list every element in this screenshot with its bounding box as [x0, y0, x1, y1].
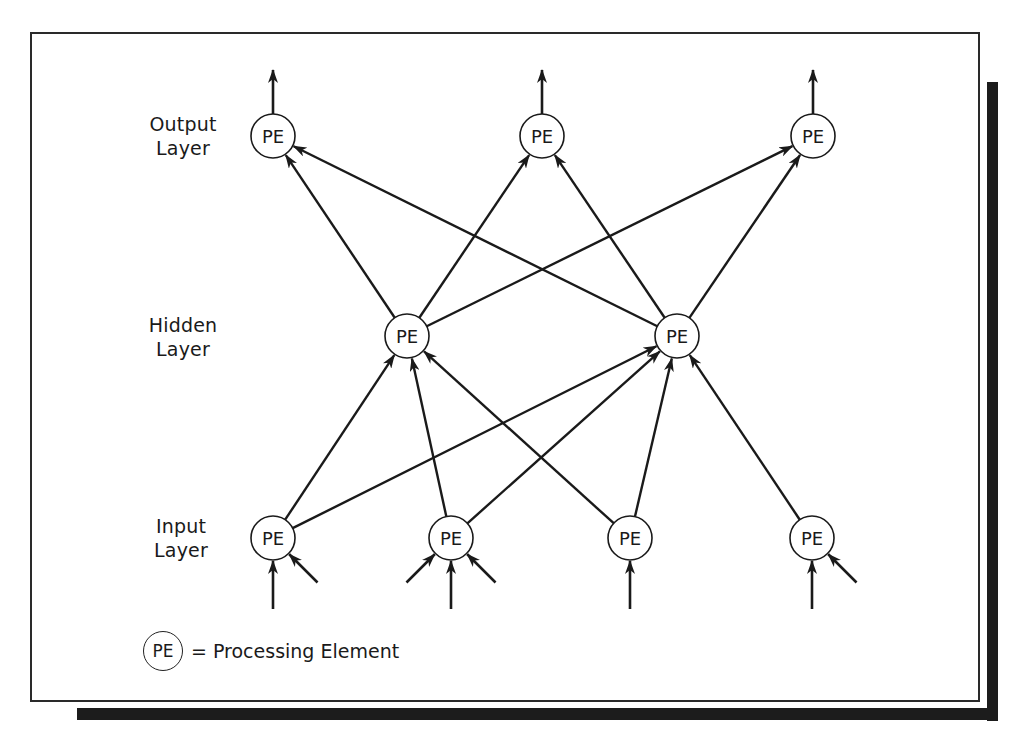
pe-label: PE [802, 126, 824, 147]
pe-node-o1: PE [251, 114, 295, 158]
pe-label: PE [619, 528, 641, 549]
connection-edges [285, 146, 800, 528]
pe-node-o2: PE [520, 114, 564, 158]
legend-text: = Processing Element [191, 640, 399, 662]
input-arrow-i4-from-lower-right [828, 554, 856, 582]
pe-label: PE [262, 528, 284, 549]
pe-label: PE [801, 528, 823, 549]
edge-i3-to-h1 [424, 351, 614, 523]
input-layer-label-line2: Layer [121, 538, 241, 562]
pe-node-h1: PE [385, 314, 429, 358]
edge-h1-to-o3 [427, 146, 793, 326]
edge-h1-to-o2 [419, 155, 529, 318]
input-arrow-i2-from-lower-left [406, 554, 434, 582]
hidden-layer-label-line2: Layer [123, 337, 243, 361]
input-arrow-i2-from-lower-right [467, 554, 495, 582]
output-layer-label-line1: Output [123, 112, 243, 136]
pe-label: PE [440, 528, 462, 549]
output-layer-label: Output Layer [123, 112, 243, 160]
edge-i1-to-h1 [285, 355, 394, 520]
processing-elements: PEPEPEPEPEPEPEPEPE [251, 114, 835, 560]
hidden-layer-label: Hidden Layer [123, 313, 243, 361]
edge-i2-to-h1 [412, 358, 446, 516]
edge-h2-to-o3 [689, 155, 800, 318]
edge-i3-to-h2 [635, 358, 672, 516]
legend-pe-symbol: PE [143, 631, 183, 671]
pe-label: PE [262, 126, 284, 147]
output-layer-label-line2: Layer [123, 136, 243, 160]
edge-i2-to-h2 [467, 351, 659, 523]
pe-label: PE [396, 326, 418, 347]
edge-i4-to-h2 [690, 355, 800, 520]
edge-i1-to-h2 [293, 346, 657, 528]
input-layer-label: Input Layer [121, 514, 241, 562]
pe-node-i3: PE [608, 516, 652, 560]
legend: PE = Processing Element [143, 628, 399, 674]
pe-node-h2: PE [655, 314, 699, 358]
pe-node-i4: PE [790, 516, 834, 560]
pe-label: PE [666, 326, 688, 347]
hidden-layer-label-line1: Hidden [123, 313, 243, 337]
input-arrow-i1-from-lower-right [289, 554, 317, 582]
pe-node-o3: PE [791, 114, 835, 158]
pe-node-i2: PE [429, 516, 473, 560]
pe-node-i1: PE [251, 516, 295, 560]
edge-h1-to-o1 [286, 155, 395, 318]
input-layer-label-line1: Input [121, 514, 241, 538]
pe-label: PE [531, 126, 553, 147]
io-arrows [273, 70, 857, 609]
